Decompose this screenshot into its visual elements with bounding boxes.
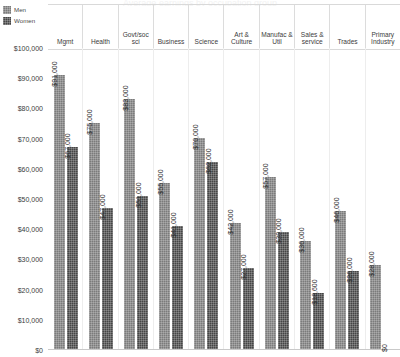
y-axis-tick-label: $30,000: [18, 256, 43, 263]
y-axis-tick-label: $0: [35, 347, 43, 354]
bar-slot: $39,000: [278, 48, 289, 349]
category-header-3[interactable]: Business: [153, 5, 188, 49]
bar-value-label: $83,000: [121, 86, 130, 111]
bar-group-4: $70,000$62,000: [189, 48, 224, 349]
bar-slot: $55,000: [159, 48, 170, 349]
bar-men-3[interactable]: $55,000: [159, 183, 170, 349]
category-header-row: MgmtHealthGovt/soc sciBusinessScienceArt…: [48, 4, 400, 50]
category-header-9[interactable]: Primary Industry: [365, 5, 400, 49]
y-axis-tick-label: $40,000: [18, 226, 43, 233]
bar-value-label: $0: [380, 344, 389, 352]
chart-legend: Men Women: [3, 6, 47, 28]
earnings-bar-chart: Average earnings by occupation group Men…: [0, 0, 400, 357]
bar-value-label: $46,000: [332, 197, 341, 222]
bar-slot: $18,600: [313, 48, 324, 349]
category-header-label: Sales & service: [295, 31, 329, 46]
bar-group-0: $91,000$67,000: [48, 48, 83, 349]
category-header-label: Business: [158, 38, 185, 46]
bar-men-5[interactable]: $42,000: [230, 223, 241, 349]
bar-value-label: $18,600: [310, 279, 319, 304]
bar-value-label: $51,000: [134, 182, 143, 207]
bar-slot: $42,000: [230, 48, 241, 349]
category-header-0[interactable]: Mgmt: [48, 5, 82, 49]
bar-slot: $47,000: [102, 48, 113, 349]
bar-value-label: $36,000: [297, 227, 306, 252]
category-header-label: Trades: [337, 38, 357, 46]
bar-men-9[interactable]: $28,000: [370, 265, 381, 349]
category-header-label: Art & Culture: [224, 31, 258, 46]
bar-value-label: $41,000: [169, 212, 178, 237]
bar-men-2[interactable]: $83,000: [124, 99, 135, 349]
category-header-2[interactable]: Govt/soc sci: [118, 5, 153, 49]
bar-men-0[interactable]: $91,000: [54, 75, 65, 349]
category-header-label: Mgmt: [57, 38, 73, 46]
plot-area: $91,000$67,000$75,000$47,000$83,000$51,0…: [48, 48, 400, 350]
bar-slot: $27,000: [243, 48, 254, 349]
bar-women-7[interactable]: $18,600: [313, 293, 324, 349]
bar-value-label: $47,000: [98, 194, 107, 219]
bar-women-5[interactable]: $27,000: [243, 268, 254, 349]
bar-groups: $91,000$67,000$75,000$47,000$83,000$51,0…: [48, 48, 400, 349]
bar-value-label: $57,000: [261, 164, 270, 189]
bar-group-3: $55,000$41,000: [154, 48, 189, 349]
bar-value-label: $75,000: [85, 110, 94, 135]
bar-women-1[interactable]: $47,000: [102, 208, 113, 349]
bar-group-8: $46,000$26,000: [330, 48, 365, 349]
bar-group-9: $28,000$0: [365, 48, 400, 349]
bar-value-label: $67,000: [63, 134, 72, 159]
legend-label-men: Men: [14, 6, 26, 14]
y-axis: $100,000$90,000$80,000$70,000$60,000$50,…: [0, 48, 45, 350]
bar-women-2[interactable]: $51,000: [137, 196, 148, 350]
category-header-label: Primary Industry: [366, 31, 400, 46]
bar-women-3[interactable]: $41,000: [172, 226, 183, 349]
bar-group-1: $75,000$47,000: [83, 48, 118, 349]
legend-swatch-icon-men: [3, 6, 11, 14]
bar-value-label: $70,000: [191, 125, 200, 150]
bar-slot: $51,000: [137, 48, 148, 349]
y-axis-tick-label: $80,000: [18, 105, 43, 112]
bar-men-1[interactable]: $75,000: [89, 123, 100, 349]
bar-slot: $67,000: [67, 48, 78, 349]
y-axis-tick-label: $60,000: [18, 165, 43, 172]
bar-slot: $70,000: [194, 48, 205, 349]
legend-item-men[interactable]: Men: [3, 6, 47, 14]
category-header-1[interactable]: Health: [82, 5, 117, 49]
category-header-4[interactable]: Science: [188, 5, 223, 49]
bar-slot: $28,000: [370, 48, 381, 349]
bar-value-label: $62,000: [204, 149, 213, 174]
category-header-5[interactable]: Art & Culture: [223, 5, 258, 49]
category-header-7[interactable]: Sales & service: [294, 5, 329, 49]
bar-women-0[interactable]: $67,000: [67, 147, 78, 349]
y-axis-tick-label: $100,000: [14, 45, 43, 52]
category-header-label: Health: [91, 38, 110, 46]
bar-value-label: $27,000: [239, 254, 248, 279]
bar-women-4[interactable]: $62,000: [207, 162, 218, 349]
bar-value-label: $42,000: [226, 209, 235, 234]
bar-men-6[interactable]: $57,000: [265, 177, 276, 349]
bar-slot: $91,000: [54, 48, 65, 349]
y-axis-tick-label: $70,000: [18, 135, 43, 142]
bar-value-label: $91,000: [50, 61, 59, 86]
y-axis-tick-label: $90,000: [18, 75, 43, 82]
y-axis-tick-label: $20,000: [18, 286, 43, 293]
legend-label-women: Women: [14, 17, 35, 25]
bar-group-7: $36,000$18,600: [294, 48, 329, 349]
bar-women-8[interactable]: $26,000: [348, 271, 359, 349]
bar-slot: $41,000: [172, 48, 183, 349]
bar-slot: $0: [383, 48, 394, 349]
bar-value-label: $28,000: [367, 251, 376, 276]
category-header-label: Science: [195, 38, 218, 46]
bar-value-label: $39,000: [274, 218, 283, 243]
category-header-8[interactable]: Trades: [329, 5, 364, 49]
legend-swatch-icon-women: [3, 17, 11, 25]
bar-group-6: $57,000$39,000: [259, 48, 294, 349]
bar-value-label: $55,000: [156, 170, 165, 195]
y-axis-tick-label: $50,000: [18, 196, 43, 203]
bar-women-6[interactable]: $39,000: [278, 232, 289, 349]
category-header-label: Manufac & Util: [260, 31, 294, 46]
category-header-6[interactable]: Manufac & Util: [259, 5, 294, 49]
bar-slot: $46,000: [335, 48, 346, 349]
bar-group-5: $42,000$27,000: [224, 48, 259, 349]
bar-group-2: $83,000$51,000: [118, 48, 153, 349]
legend-item-women[interactable]: Women: [3, 17, 47, 25]
